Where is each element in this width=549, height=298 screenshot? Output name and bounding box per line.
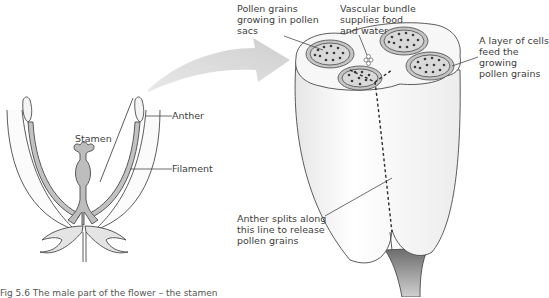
figure-caption: Fig 5.6 The male part of the flower – th…	[0, 288, 217, 298]
label-cell-layer: A layer of cells feed the growing pollen…	[479, 35, 549, 79]
label-vascular-bundle: Vascular bundle supplies food and water	[340, 3, 416, 36]
zoom-arrow-icon	[148, 38, 290, 92]
label-stamen: Stamen	[75, 133, 112, 144]
label-pollen-sacs: Pollen grains growing in pollen sacs	[237, 3, 319, 36]
pollen-sac-top-left	[306, 40, 354, 68]
label-anther: Anther	[172, 110, 204, 121]
flower-illustration	[7, 97, 160, 262]
label-anther-splits: Anther splits along this line to release…	[237, 213, 326, 246]
label-filament: Filament	[172, 163, 213, 174]
pollen-sac-bottom-right	[406, 52, 454, 80]
